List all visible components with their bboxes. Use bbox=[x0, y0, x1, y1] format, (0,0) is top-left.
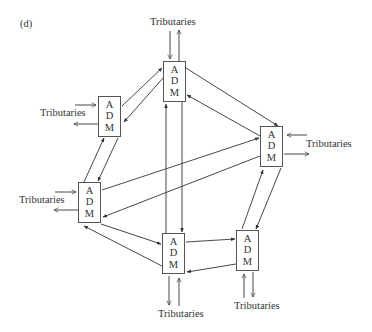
adm-letter-a: A bbox=[170, 237, 178, 248]
adm-letter-a: A bbox=[244, 234, 252, 245]
tributaries-label-upper-left: Tributaries bbox=[40, 108, 86, 119]
adm-letter-a: A bbox=[86, 186, 94, 197]
adm-letter-m: M bbox=[169, 260, 178, 271]
adm-letter-a: A bbox=[171, 65, 179, 76]
adm-letter-m: M bbox=[243, 257, 252, 268]
adm-letter-m: M bbox=[85, 209, 94, 220]
tributaries-label-bottom-center: Tributaries bbox=[158, 309, 204, 320]
adm-node-bottom-right: A D M bbox=[236, 230, 259, 271]
tributaries-label-left: Tributaries bbox=[19, 195, 65, 206]
ring-network-diagram bbox=[0, 0, 372, 332]
adm-letter-d: D bbox=[170, 248, 178, 259]
adm-node-bottom-center: A D M bbox=[162, 233, 185, 274]
adm-letter-m: M bbox=[170, 88, 179, 99]
tributaries-label-top: Tributaries bbox=[150, 17, 196, 28]
adm-letter-a: A bbox=[106, 100, 114, 111]
tributaries-label-bottom-right: Tributaries bbox=[234, 301, 280, 312]
adm-letter-m: M bbox=[267, 153, 276, 164]
adm-node-right: A D M bbox=[260, 126, 283, 167]
panel-label: (d) bbox=[20, 19, 32, 30]
adm-node-left: A D M bbox=[78, 182, 101, 223]
adm-node-upper-left: A D M bbox=[98, 96, 121, 137]
adm-letter-d: D bbox=[268, 141, 276, 152]
adm-letter-d: D bbox=[106, 111, 114, 122]
tributaries-label-right: Tributaries bbox=[306, 139, 352, 150]
adm-letter-d: D bbox=[244, 245, 252, 256]
adm-letter-m: M bbox=[105, 123, 114, 134]
adm-letter-d: D bbox=[171, 76, 179, 87]
adm-letter-a: A bbox=[268, 130, 276, 141]
adm-node-top: A D M bbox=[163, 61, 186, 102]
adm-letter-d: D bbox=[86, 197, 94, 208]
